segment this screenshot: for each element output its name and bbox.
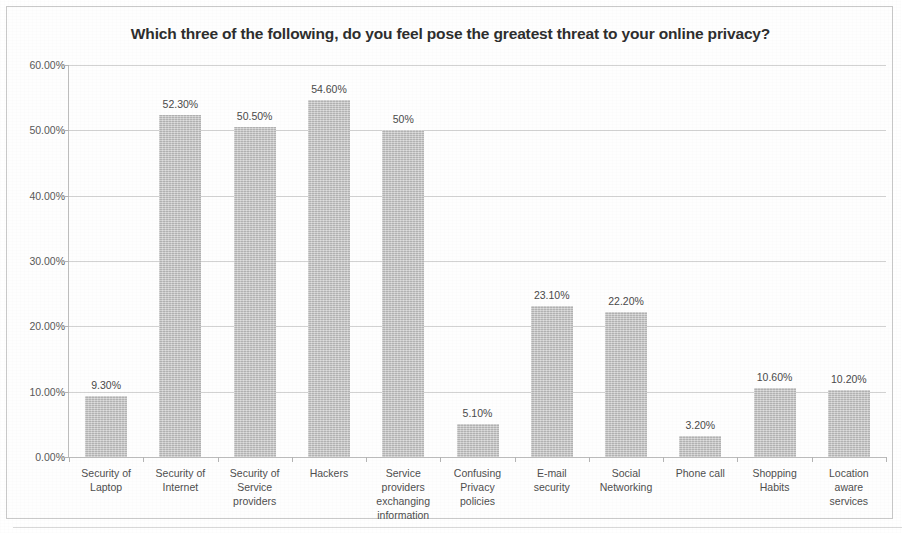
bar xyxy=(754,388,796,457)
x-axis-tick xyxy=(812,457,813,462)
bar xyxy=(679,436,721,457)
gridline xyxy=(69,457,886,458)
bar-value-label: 50.50% xyxy=(218,110,292,122)
y-axis-tick-label: 30.00% xyxy=(9,255,65,267)
x-axis-category-line: Service xyxy=(212,480,298,494)
bar-value-label: 52.30% xyxy=(143,98,217,110)
x-axis-category-line: Networking xyxy=(583,480,669,494)
y-axis-tick-label: 10.00% xyxy=(9,386,65,398)
chart-title: Which three of the following, do you fee… xyxy=(7,25,894,43)
x-axis-tick xyxy=(515,457,516,462)
x-axis-category-line: services xyxy=(806,494,892,508)
gridline xyxy=(69,65,886,66)
x-axis-category-line: providers xyxy=(212,494,298,508)
bar-value-label: 5.10% xyxy=(440,407,514,419)
y-axis-tick xyxy=(62,65,69,66)
y-axis-tick xyxy=(62,130,69,131)
x-axis-tick xyxy=(366,457,367,462)
y-axis-labels: 0.00%10.00%20.00%30.00%40.00%50.00%60.00… xyxy=(7,7,65,533)
x-axis-tick xyxy=(218,457,219,462)
bar-value-label: 23.10% xyxy=(515,289,589,301)
x-axis-category-line: policies xyxy=(434,494,520,508)
x-axis-tick xyxy=(292,457,293,462)
y-axis-tick xyxy=(62,457,69,458)
bar-value-label: 54.60% xyxy=(292,83,366,95)
x-axis-tick xyxy=(886,457,887,462)
x-axis-tick xyxy=(143,457,144,462)
bar xyxy=(85,396,127,457)
x-axis-tick xyxy=(663,457,664,462)
chart-frame: Which three of the following, do you fee… xyxy=(6,6,893,519)
bar xyxy=(828,390,870,457)
y-axis-tick-label: 40.00% xyxy=(9,190,65,202)
bar xyxy=(308,100,350,457)
y-axis-tick xyxy=(62,196,69,197)
x-axis-tick xyxy=(589,457,590,462)
bar-value-label: 9.30% xyxy=(69,379,143,391)
bar xyxy=(457,424,499,457)
x-axis-tick xyxy=(737,457,738,462)
y-axis-tick xyxy=(62,392,69,393)
bar-value-label: 3.20% xyxy=(663,419,737,431)
x-axis-tick xyxy=(69,457,70,462)
y-axis-tick xyxy=(62,326,69,327)
bar xyxy=(234,127,276,457)
bar-value-label: 10.60% xyxy=(737,371,811,383)
bar-value-label: 22.20% xyxy=(589,295,663,307)
y-axis-tick-label: 0.00% xyxy=(9,451,65,463)
bottom-divider xyxy=(13,527,902,528)
x-axis-category-line: aware xyxy=(806,480,892,494)
x-axis-category-line: information xyxy=(360,508,446,522)
bar-value-label: 50% xyxy=(366,113,440,125)
bar xyxy=(605,312,647,457)
x-axis-tick xyxy=(440,457,441,462)
bar xyxy=(159,115,201,457)
plot-area: 9.30%52.30%50.50%54.60%50%5.10%23.10%22.… xyxy=(69,65,886,457)
bar xyxy=(382,130,424,457)
y-axis-tick-label: 60.00% xyxy=(9,59,65,71)
x-axis-category-line: Location xyxy=(806,466,892,480)
y-axis-tick-label: 50.00% xyxy=(9,124,65,136)
x-axis-category-label: Locationawareservices xyxy=(806,466,892,508)
y-axis-tick-label: 20.00% xyxy=(9,320,65,332)
bar-value-label: 10.20% xyxy=(812,373,886,385)
bar xyxy=(531,306,573,457)
y-axis-tick xyxy=(62,261,69,262)
